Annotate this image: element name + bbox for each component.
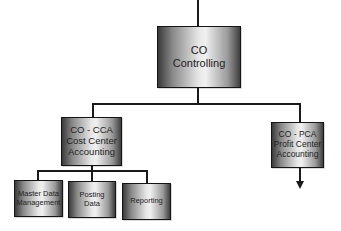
node-profit-center-accounting: CO - PCA Profit Center Accounting — [271, 122, 324, 168]
node-posting-data: Posting Data — [68, 181, 116, 218]
reporting-line-1: Reporting — [130, 197, 163, 206]
pca-incoming-connector — [299, 103, 301, 123]
level1-horizontal-connector — [92, 103, 300, 105]
arrow-down-icon — [296, 181, 304, 189]
cca-incoming-connector — [92, 103, 94, 118]
node-cost-center-accounting: CO - CCA Cost Center Accounting — [61, 117, 122, 166]
root-node-controlling: CO Controlling — [157, 26, 241, 88]
reporting-incoming-connector — [146, 170, 148, 184]
root-down-connector — [197, 87, 199, 104]
node-master-data-management: Master Data Management — [14, 180, 63, 217]
posting-data-line-2: Data — [84, 200, 100, 209]
cca-line-3: Accounting — [68, 147, 115, 158]
pca-line-3: Accounting — [276, 150, 318, 160]
root-node-line-1: CO — [191, 44, 208, 57]
master-data-line-2: Management — [17, 199, 61, 208]
root-node-line-2: Controlling — [173, 57, 226, 70]
node-reporting: Reporting — [122, 183, 171, 220]
root-incoming-connector — [197, 0, 199, 27]
